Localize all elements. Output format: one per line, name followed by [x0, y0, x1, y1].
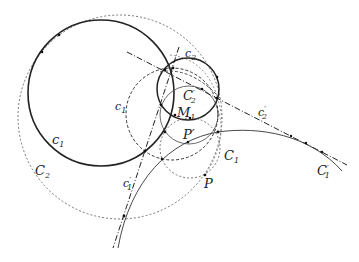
label-c2: c2 [185, 47, 196, 62]
label-P-prime: P′ [182, 127, 195, 142]
label-c1-dashed: c1 [115, 100, 126, 115]
label-C1: C1 [224, 148, 239, 165]
label-C2: C2 [35, 163, 50, 180]
label-P: P [203, 176, 213, 191]
geometry-diagram: c1 C2 c1 c2 C′2 M1 P′ C1 P c′1 c′2 C′1 [0, 0, 359, 262]
label-c2-prime: c′2 [258, 104, 267, 121]
points [41, 34, 323, 218]
circle-c1-solid [28, 20, 174, 166]
line-c1-prime [113, 47, 179, 248]
label-c1: c1 [52, 132, 64, 149]
label-c1-prime: c′1 [123, 175, 132, 192]
circle-c1-dashed [126, 68, 218, 160]
label-C1-prime: C′1 [317, 163, 330, 180]
label-M1: M1 [176, 105, 195, 122]
label-C2-prime: C′2 [183, 88, 196, 105]
